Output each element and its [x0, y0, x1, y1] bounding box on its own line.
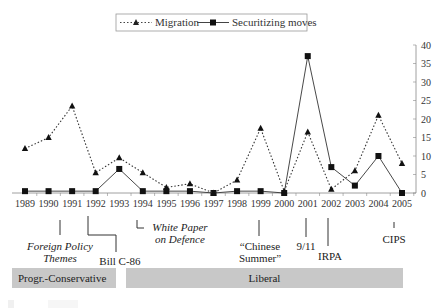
triangle-marker-icon: [305, 128, 311, 134]
annotation-irpa: IRPA: [310, 250, 350, 262]
triangle-marker-icon: [375, 112, 381, 118]
y-tick-label: 0: [421, 188, 426, 199]
annotation-text: CIPS: [374, 233, 414, 245]
annotation-white-paper: White Paper on Defence: [148, 221, 212, 245]
square-marker-icon: [234, 188, 240, 194]
series-securitizing-moves: [22, 53, 405, 196]
y-axis-ticks: 0510152025303540: [413, 40, 431, 199]
triangle-marker-icon: [69, 103, 75, 109]
legend-migration-label: Migration: [155, 16, 199, 28]
square-marker-icon: [93, 188, 99, 194]
annotation-text: Foreign Policy: [20, 240, 100, 252]
legend-securitizing-label: Securitizing moves: [232, 16, 317, 28]
x-tick-label: 2004: [368, 198, 388, 209]
triangle-marker-icon: [352, 167, 358, 173]
x-tick-label: 1993: [109, 198, 129, 209]
triangle-marker-icon: [116, 154, 122, 160]
triangle-marker-icon: [187, 180, 193, 186]
triangle-marker-icon: [399, 160, 405, 166]
square-marker-icon: [305, 53, 311, 59]
y-tick-label: 20: [421, 114, 431, 125]
square-marker-icon: [328, 164, 334, 170]
square-marker-icon: [210, 20, 216, 26]
square-marker-icon: [46, 188, 52, 194]
square-marker-icon: [69, 188, 75, 194]
triangle-marker-icon: [140, 169, 146, 175]
triangle-marker-icon: [22, 145, 28, 151]
triangle-marker-icon: [328, 186, 334, 192]
annotation-foreign-policy: Foreign Policy Themes: [20, 240, 100, 264]
period-label: Liberal: [249, 272, 281, 284]
x-tick-label: 1999: [251, 198, 271, 209]
period-progressive-conservative: Progr.-Conservative: [12, 268, 116, 288]
x-tick-label: 2002: [321, 198, 341, 209]
y-tick-label: 35: [421, 58, 431, 69]
x-tick-label: 2000: [274, 198, 294, 209]
triangle-marker-icon: [92, 169, 98, 175]
y-tick-label: 25: [421, 95, 431, 106]
y-tick-label: 30: [421, 77, 431, 88]
annotation-bill-c86: Bill C-86: [90, 255, 150, 267]
y-tick-label: 15: [421, 132, 431, 143]
annotation-text: Bill C-86: [90, 255, 150, 267]
square-marker-icon: [399, 190, 405, 196]
square-marker-icon: [116, 166, 122, 172]
period-liberal: Liberal: [126, 268, 403, 288]
annotation-chinese-summer: “Chinese Summer”: [230, 240, 290, 264]
annotation-text: on Defence: [148, 233, 212, 245]
x-tick-label: 2005: [392, 198, 412, 209]
x-tick-label: 1996: [180, 198, 200, 209]
x-tick-label: 1990: [39, 198, 59, 209]
y-tick-label: 10: [421, 151, 431, 162]
annotation-text: White Paper: [148, 221, 212, 233]
x-tick-label: 1992: [86, 198, 106, 209]
x-tick-label: 1994: [133, 198, 153, 209]
square-marker-icon: [258, 188, 264, 194]
x-tick-label: 2001: [298, 198, 318, 209]
x-tick-label: 1997: [204, 198, 224, 209]
cropped-caption: [8, 300, 428, 308]
legend: Migration Securitizing moves: [116, 14, 317, 31]
square-marker-icon: [22, 188, 28, 194]
annotation-text: IRPA: [310, 250, 350, 262]
x-tick-label: 1995: [156, 198, 176, 209]
x-tick-label: 1991: [62, 198, 82, 209]
y-tick-label: 40: [421, 40, 431, 51]
square-marker-icon: [140, 188, 146, 194]
annotation-text: Summer”: [230, 252, 290, 264]
annotation-lines: [60, 216, 394, 252]
series-migration: [22, 103, 405, 196]
x-tick-label: 2003: [345, 198, 365, 209]
x-tick-label: 1989: [15, 198, 35, 209]
square-marker-icon: [375, 153, 381, 159]
square-marker-icon: [187, 188, 193, 194]
y-tick-label: 5: [421, 169, 426, 180]
annotation-text: “Chinese: [230, 240, 290, 252]
x-tick-label: 1998: [227, 198, 247, 209]
period-label: Progr.-Conservative: [18, 272, 106, 284]
triangle-marker-icon: [257, 125, 263, 131]
square-marker-icon: [352, 183, 358, 189]
annotation-text: Themes: [20, 252, 100, 264]
annotation-cips: CIPS: [374, 233, 414, 245]
triangle-marker-icon: [234, 177, 240, 183]
